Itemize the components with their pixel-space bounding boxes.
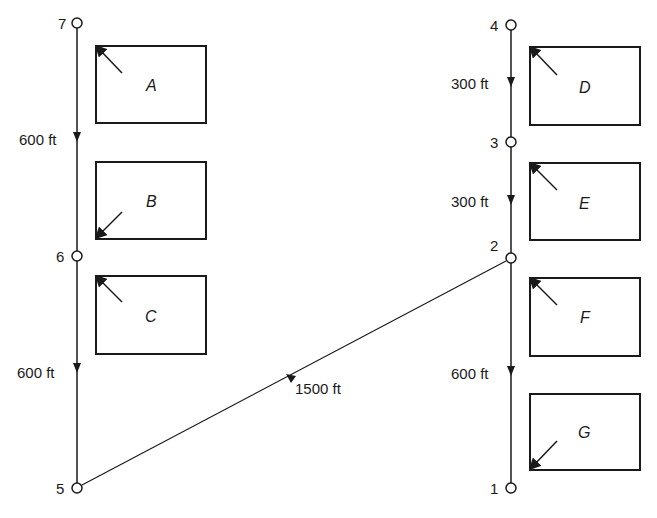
node-5: 5 [56,480,82,497]
svg-text:A: A [145,77,157,94]
svg-text:F: F [580,309,591,326]
svg-text:E: E [579,195,590,212]
node-1: 1 [490,480,516,497]
edge-label-2-1: 600 ft [451,365,489,382]
svg-text:5: 5 [56,480,64,497]
node-3: 3 [490,134,516,151]
svg-text:D: D [579,79,591,96]
block-f: F [530,278,640,356]
arrow-down-icon [507,366,515,376]
svg-text:C: C [145,308,157,325]
block-b: B [96,162,206,239]
edge-label-7-6: 600 ft [19,131,57,148]
arrow-down-icon [73,132,81,142]
svg-text:7: 7 [58,15,66,32]
arrow-down-icon [73,363,81,373]
svg-text:2: 2 [490,237,498,254]
arrow-down-icon [507,195,515,205]
node-6: 6 [56,248,82,265]
edge-label-5-2: 1500 ft [295,380,342,397]
svg-text:B: B [146,193,157,210]
svg-text:4: 4 [490,17,498,34]
block-e: E [530,163,640,240]
edge-label-3-2: 300 ft [451,193,489,210]
svg-text:3: 3 [490,134,498,151]
node-7: 7 [58,15,82,32]
edge-5-2-line [82,261,506,485]
block-a: A [96,46,206,123]
node-2: 2 [490,237,516,263]
svg-text:1: 1 [490,480,498,497]
edge-label-6-5: 600 ft [17,364,55,381]
network-diagram: 7 6 5 4 3 2 1 600 ft 600 ft 1500 ft 300 … [0,0,657,518]
block-g: G [530,394,640,470]
svg-text:G: G [578,424,590,441]
block-c: C [96,276,206,354]
node-4: 4 [490,17,516,34]
arrow-down-icon [507,77,515,87]
svg-text:6: 6 [56,248,64,265]
edge-label-4-3: 300 ft [451,75,489,92]
block-d: D [530,47,640,125]
